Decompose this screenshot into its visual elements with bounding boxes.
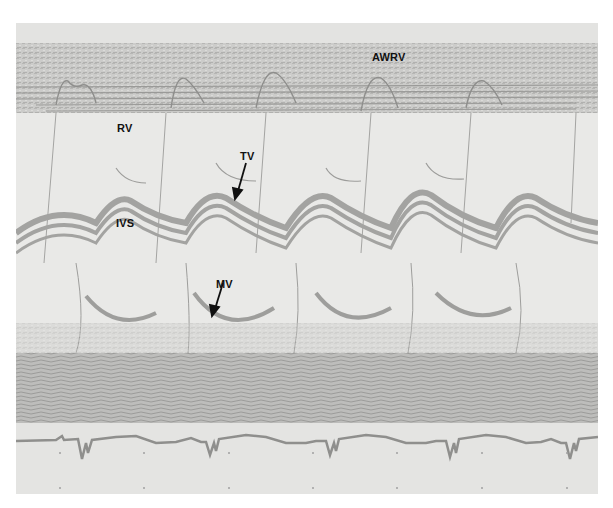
label-awrv: AWRV	[372, 51, 406, 63]
label-tv: TV	[240, 150, 254, 162]
echo-traces	[16, 23, 598, 494]
label-mv: MV	[216, 278, 233, 290]
label-rv: RV	[117, 122, 132, 134]
arrow-icons	[210, 163, 246, 316]
echocardiogram-image: AWRV RV TV IVS MV	[16, 23, 598, 494]
label-ivs: IVS	[116, 217, 134, 229]
